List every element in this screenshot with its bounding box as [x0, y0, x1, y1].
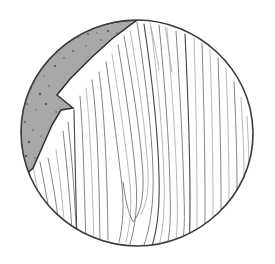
illustration-canvas [0, 0, 275, 264]
wood-cross-section-figure [0, 0, 275, 264]
